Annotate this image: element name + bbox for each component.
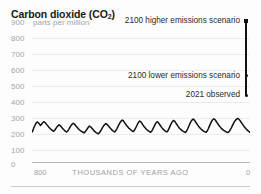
y-tick-200: 200 [11,130,31,139]
y-tick-700: 700 [11,50,31,59]
annotation-lower-emissions: 2100 lower emissions scenario [0,71,240,80]
bottom-divider [11,186,250,187]
annotation-observed: 2021 observed [0,90,240,99]
co2-chart-figure: Carbon dioxide (CO2) parts per million 9… [0,0,261,194]
annotation-higher-emissions: 2100 higher emissions scenario [0,16,240,25]
annotation-dot-lower-emissions [245,74,248,77]
y-tick-800: 800 [11,34,31,43]
y-tick-100: 100 [11,146,31,155]
annotation-dot-higher-emissions [245,20,248,23]
y-tick-300: 300 [11,114,31,123]
projection-spike-line [245,21,247,96]
x-tick-right: 0 [246,168,250,177]
x-axis-label: THOUSANDS OF YEARS AGO [0,168,261,177]
annotation-dot-observed [245,94,248,97]
